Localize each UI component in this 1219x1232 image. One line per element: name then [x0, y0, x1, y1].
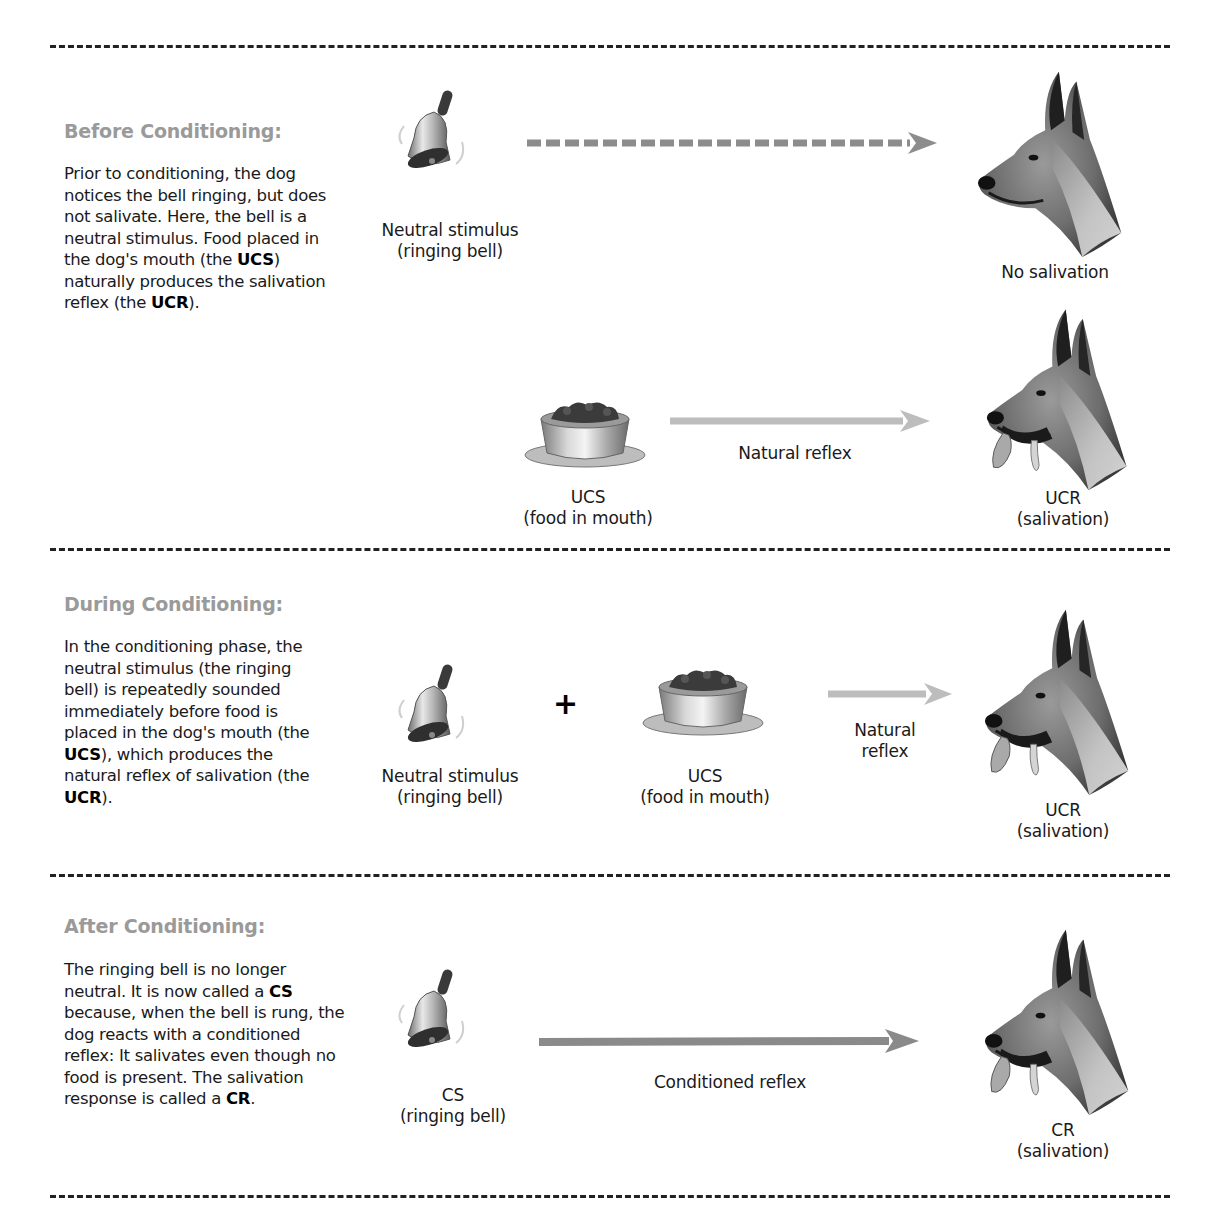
dog-head-icon — [948, 62, 1158, 257]
description-text: . — [250, 1089, 255, 1108]
arrow-label: Natural reflex — [810, 720, 960, 762]
term-ucr: UCR — [151, 293, 188, 312]
term-ucr: UCR — [64, 788, 101, 807]
food-bowl-icon — [640, 665, 766, 739]
conditioned-reflex-arrow-icon — [537, 1027, 922, 1055]
section-heading: During Conditioning: — [64, 593, 283, 615]
response-label: UCR (salivation) — [983, 800, 1143, 842]
description-text: In the conditioning phase, the neutral s… — [64, 637, 309, 742]
description-text: ). — [101, 788, 112, 807]
section-description: The ringing bell is no longer neutral. I… — [64, 959, 349, 1110]
term-ucs: UCS — [64, 745, 101, 764]
bell-icon — [394, 965, 474, 1060]
section-description: Prior to conditioning, the dog notices t… — [64, 163, 346, 314]
response-label: CR (salivation) — [983, 1120, 1143, 1162]
section-divider-bottom — [50, 1195, 1170, 1198]
natural-reflex-arrow-icon — [826, 681, 956, 707]
stimulus-label: Neutral stimulus (ringing bell) — [370, 220, 530, 262]
stimulus-label: Neutral stimulus (ringing bell) — [370, 766, 530, 808]
salivating-dog-icon — [955, 600, 1165, 795]
description-text: ). — [188, 293, 199, 312]
arrow-label: Natural reflex — [715, 443, 875, 464]
section-description: In the conditioning phase, the neutral s… — [64, 636, 329, 808]
section-divider-top — [50, 45, 1170, 48]
description-text: The ringing bell is no longer neutral. I… — [64, 960, 286, 1001]
salivating-dog-icon — [955, 920, 1165, 1115]
response-label: No salivation — [975, 262, 1135, 283]
section-heading: Before Conditioning: — [64, 120, 282, 142]
dashed-arrow-icon — [525, 130, 945, 156]
description-text: ), which produces the natural reflex of … — [64, 745, 309, 786]
section-heading: After Conditioning: — [64, 915, 265, 937]
description-text: because, when the bell is rung, the dog … — [64, 1003, 344, 1108]
salivating-dog-icon — [955, 300, 1165, 490]
bell-icon — [394, 660, 474, 755]
term-cs: CS — [269, 982, 293, 1001]
natural-reflex-arrow-icon — [668, 408, 933, 434]
bell-icon — [394, 86, 474, 181]
section-divider-before-during — [50, 548, 1170, 551]
description-text: Prior to conditioning, the dog notices t… — [64, 164, 326, 269]
term-ucs: UCS — [237, 250, 274, 269]
stimulus-label: CS (ringing bell) — [373, 1085, 533, 1127]
stimulus-label: UCS (food in mouth) — [625, 766, 785, 808]
response-label: UCR (salivation) — [983, 488, 1143, 530]
section-divider-during-after — [50, 874, 1170, 877]
plus-operator: + — [553, 686, 578, 721]
stimulus-label: UCS (food in mouth) — [508, 487, 668, 529]
food-bowl-icon — [522, 397, 648, 471]
arrow-label: Conditioned reflex — [625, 1072, 835, 1093]
term-cr: CR — [226, 1089, 250, 1108]
